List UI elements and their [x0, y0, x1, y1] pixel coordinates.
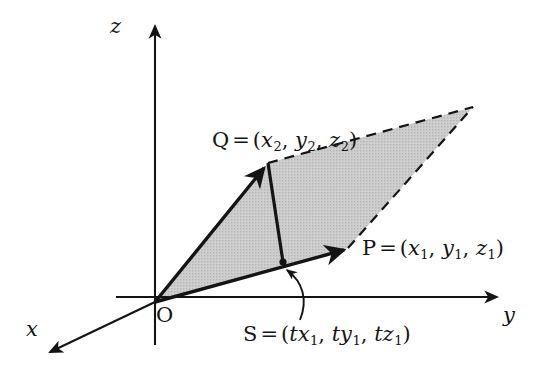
point-p-coord-2: y — [442, 236, 454, 260]
point-s-marker — [279, 258, 286, 265]
vector-diagram-figure: z y x O Q=(x2, y2, z2) P=(x1, y1, z1) S=… — [0, 0, 538, 370]
point-p-name: P — [362, 236, 376, 260]
x-axis-label: x — [26, 317, 38, 341]
point-s-sep-2: , — [361, 322, 368, 346]
point-q-paren-open: ( — [253, 128, 261, 152]
s-label-pointer — [287, 270, 304, 320]
point-p-coord-1-sub: 1 — [420, 247, 429, 262]
point-q-sep-2: , — [316, 128, 323, 152]
point-s-coord-3: z — [383, 322, 394, 346]
point-s-scalar-3: t — [374, 322, 382, 346]
z-axis-label: z — [110, 14, 121, 38]
point-s-label: S=(tx1, ty1, tz1) — [243, 322, 411, 348]
point-p-sep-1: , — [429, 236, 436, 260]
origin-label: O — [156, 303, 173, 327]
point-p-sep-2: , — [463, 236, 470, 260]
point-p-paren-close: ) — [496, 236, 504, 260]
point-s-coord-1-sub: 1 — [310, 333, 319, 348]
point-p-coord-3-sub: 1 — [487, 247, 496, 262]
point-q-equals: = — [229, 128, 253, 152]
point-q-coord-3: z — [329, 128, 340, 152]
point-s-scalar-1: t — [289, 322, 297, 346]
point-p-coord-1: x — [408, 236, 420, 260]
point-q-coord-1-sub: 2 — [273, 139, 282, 154]
point-s-name: S — [243, 322, 257, 346]
point-q-label: Q=(x2, y2, z2) — [212, 128, 357, 154]
point-s-coord-2-sub: 1 — [352, 333, 361, 348]
y-axis-label: y — [503, 303, 515, 327]
diagram-canvas — [0, 0, 538, 370]
point-s-sep-1: , — [318, 322, 325, 346]
point-s-equals: = — [257, 322, 281, 346]
x-axis — [50, 302, 155, 352]
point-q-coord-1: x — [261, 128, 273, 152]
point-q-name: Q — [212, 128, 229, 152]
point-s-paren-open: ( — [281, 322, 289, 346]
point-s-coord-2: y — [340, 322, 352, 346]
point-q-coord-2: y — [295, 128, 307, 152]
point-q-sep-1: , — [282, 128, 289, 152]
point-p-coord-2-sub: 1 — [454, 247, 463, 262]
point-s-coord-1: x — [298, 322, 310, 346]
point-q-coord-3-sub: 2 — [340, 139, 349, 154]
point-p-equals: = — [376, 236, 400, 260]
point-q-paren-close: ) — [349, 128, 357, 152]
point-s-paren-close: ) — [402, 322, 410, 346]
point-s-scalar-2: t — [332, 322, 340, 346]
point-p-label: P=(x1, y1, z1) — [362, 236, 504, 262]
point-q-coord-2-sub: 2 — [307, 139, 316, 154]
point-p-coord-3: z — [476, 236, 487, 260]
point-p-paren-open: ( — [400, 236, 408, 260]
